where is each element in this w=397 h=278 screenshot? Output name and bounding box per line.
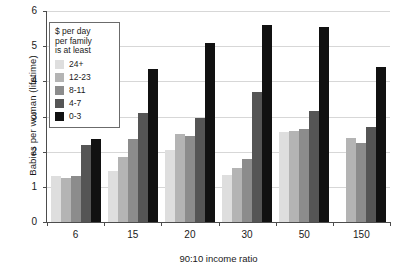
y-tick-label: 0 (13, 217, 37, 227)
bar (175, 134, 185, 222)
bar-group (336, 11, 386, 222)
x-tick-mark (333, 222, 334, 226)
y-tick-mark (43, 187, 47, 188)
x-tick-mark (104, 222, 105, 226)
bar (91, 139, 101, 222)
legend-swatch (55, 99, 64, 108)
bar (279, 132, 289, 222)
bar (356, 143, 366, 222)
y-tick-label: 1 (13, 182, 37, 192)
legend-label: 8-11 (69, 86, 85, 95)
bar (195, 118, 205, 222)
bar-chart: Babies per woman (lifetime) 0123456 6152… (0, 0, 397, 278)
bar (366, 127, 376, 222)
x-axis-title: 90:10 income ratio (47, 253, 390, 264)
y-tick-label: 5 (13, 41, 37, 51)
y-tick-mark (43, 81, 47, 82)
bar (222, 175, 232, 222)
x-tick-label: 30 (225, 229, 269, 240)
bar (242, 159, 252, 222)
bar (51, 176, 61, 222)
bar (148, 69, 158, 222)
y-tick-mark (43, 46, 47, 47)
x-tick-label: 150 (339, 229, 383, 240)
x-tick-mark (161, 222, 162, 226)
legend-swatch (55, 86, 64, 95)
y-tick-label: 4 (13, 76, 37, 86)
x-tick-mark (47, 222, 48, 226)
bar (319, 27, 329, 222)
legend-item: 12-23 (55, 71, 114, 84)
x-tick-label: 20 (168, 229, 212, 240)
bar (205, 43, 215, 222)
y-tick-mark (43, 152, 47, 153)
bar (262, 25, 272, 222)
bar-group (222, 11, 272, 222)
x-tick-label: 15 (111, 229, 155, 240)
bar (81, 145, 91, 222)
bar (346, 138, 356, 222)
legend-items: 24+12-238-114-70-3 (55, 58, 114, 123)
bar (61, 178, 71, 222)
bar (252, 92, 262, 222)
bar (71, 176, 81, 222)
legend-item: 4-7 (55, 97, 114, 110)
bar (289, 131, 299, 222)
y-tick-mark (43, 11, 47, 12)
legend: $ per day per family is at least 24+12-2… (49, 22, 120, 128)
y-tick-label: 6 (13, 6, 37, 16)
legend-label: 4-7 (69, 99, 81, 108)
x-tick-mark (390, 222, 391, 226)
legend-swatch (55, 112, 64, 121)
bar (309, 111, 319, 222)
y-tick-label: 2 (13, 147, 37, 157)
bar (138, 113, 148, 222)
bar (232, 168, 242, 223)
legend-item: 8-11 (55, 84, 114, 97)
legend-title: $ per day per family is at least (55, 27, 114, 56)
bar-group (165, 11, 215, 222)
legend-swatch (55, 73, 64, 82)
legend-label: 24+ (69, 60, 83, 69)
bar (108, 171, 118, 222)
x-tick-label: 50 (282, 229, 326, 240)
legend-item: 0-3 (55, 110, 114, 123)
bar (185, 136, 195, 222)
x-tick-mark (219, 222, 220, 226)
bar (118, 157, 128, 222)
legend-item: 24+ (55, 58, 114, 71)
legend-label: 12-23 (69, 73, 91, 82)
x-tick-mark (276, 222, 277, 226)
bar (299, 129, 309, 222)
y-tick-label: 3 (13, 112, 37, 122)
bar (128, 139, 138, 222)
legend-swatch (55, 60, 64, 69)
legend-label: 0-3 (69, 112, 81, 121)
y-tick-mark (43, 117, 47, 118)
bar (165, 150, 175, 222)
bar-group (279, 11, 329, 222)
bar (376, 67, 386, 222)
x-tick-label: 6 (54, 229, 98, 240)
